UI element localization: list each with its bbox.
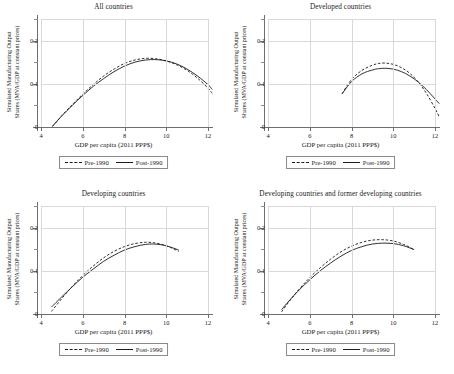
gridline-vertical: [435, 19, 436, 127]
gridline-vertical: [310, 19, 311, 127]
y-axis-minor-tick: [261, 62, 265, 63]
legend-label-pre: Pre-1990: [85, 159, 109, 166]
y-axis-tick-label: 0.1: [30, 268, 38, 274]
gridline-vertical: [352, 206, 353, 314]
x-axis-tick-label: 12: [432, 133, 438, 139]
y-axis-minor-tick: [261, 292, 265, 293]
x-axis-label: GDP per capita (2011 PPP$): [227, 328, 454, 335]
x-axis-tick: [208, 314, 209, 318]
x-axis-tick: [268, 314, 269, 318]
curve-pre-1990: [52, 58, 212, 126]
y-axis-minor-tick: [34, 62, 38, 63]
x-axis-tick-label: 10: [163, 133, 169, 139]
y-axis-tick-label: 0.2: [257, 37, 265, 43]
x-axis-tick: [125, 314, 126, 318]
solid-line-icon: [343, 162, 360, 163]
y-axis-line: [264, 15, 265, 131]
y-axis-label-line1: Simulated Manufacturing Output: [233, 203, 239, 315]
x-axis-tick: [41, 127, 42, 131]
legend-label-post: Post-1990: [363, 346, 390, 353]
x-axis-tick-label: 6: [81, 133, 84, 139]
x-axis-tick-label: 6: [81, 320, 84, 326]
curve-pre-1990: [51, 242, 178, 311]
y-axis-tick-label: 0.2: [30, 37, 38, 43]
x-axis-tick: [435, 127, 436, 131]
legend-item-post: Post-1990: [343, 159, 390, 166]
x-axis-tick: [208, 127, 209, 131]
y-axis-tick-label: 0: [35, 124, 38, 130]
x-axis-tick-label: 8: [350, 133, 353, 139]
plot-area: 00.10.24681012: [268, 206, 435, 314]
figure-grid: All countries Simulated Manufacturing Ou…: [0, 0, 454, 374]
y-axis-tick-label: 0.1: [30, 81, 38, 87]
y-axis-label: Simulated Manufacturing Output Shares (M…: [233, 16, 249, 128]
y-axis-label: Simulated Manufacturing Output Shares (M…: [6, 16, 22, 128]
legend-label-post: Post-1990: [136, 346, 163, 353]
curve-post-1990: [52, 60, 212, 127]
x-axis-tick-label: 6: [308, 133, 311, 139]
y-axis-tick-label: 0: [262, 311, 265, 317]
gridline-vertical: [268, 206, 269, 314]
gridline-vertical: [268, 19, 269, 127]
x-axis-tick: [83, 127, 84, 131]
x-axis-label: GDP per capita (2011 PPP$): [0, 141, 227, 148]
x-axis-tick: [166, 314, 167, 318]
curve-post-1990: [342, 68, 439, 103]
y-axis-line: [37, 15, 38, 131]
x-axis-tick: [268, 127, 269, 131]
solid-line-icon: [116, 162, 133, 163]
gridline-vertical: [393, 19, 394, 127]
legend-item-post: Post-1990: [343, 346, 390, 353]
x-axis-tick-label: 10: [163, 320, 169, 326]
gridline-vertical: [166, 206, 167, 314]
legend-item-pre: Pre-1990: [65, 159, 109, 166]
legend-item-post: Post-1990: [116, 159, 163, 166]
y-axis-tick-label: 0.1: [257, 81, 265, 87]
x-axis-tick-label: 10: [390, 320, 396, 326]
y-axis-tick-label: 0.1: [257, 268, 265, 274]
y-axis-tick-label: 0.2: [257, 224, 265, 230]
plot-area: 00.10.24681012: [41, 206, 208, 314]
x-axis-tick-label: 8: [123, 320, 126, 326]
panel-all-countries: All countries Simulated Manufacturing Ou…: [0, 0, 227, 187]
solid-line-icon: [116, 349, 133, 350]
legend: Pre-1990 Post-1990: [286, 156, 396, 169]
x-axis-tick-label: 4: [266, 133, 269, 139]
panel-title: All countries: [0, 3, 227, 11]
y-axis-label-line2: Shares (MVA/GDP at constant prices): [14, 16, 20, 128]
y-axis-label: Simulated Manufacturing Output Shares (M…: [6, 203, 22, 315]
legend-label-pre: Pre-1990: [312, 346, 336, 353]
panel-title: Developed countries: [227, 3, 454, 11]
gridline-vertical: [435, 206, 436, 314]
y-axis-label-line2: Shares (MVA/GDP at constant prices): [14, 203, 20, 315]
legend: Pre-1990 Post-1990: [286, 343, 396, 356]
gridline-vertical: [83, 206, 84, 314]
gridline-vertical: [208, 206, 209, 314]
y-axis-minor-tick: [34, 206, 38, 207]
dashed-line-icon: [65, 349, 82, 350]
gridline-vertical: [125, 19, 126, 127]
y-axis-minor-tick: [261, 105, 265, 106]
y-axis-minor-tick: [34, 105, 38, 106]
x-axis-tick-label: 10: [390, 133, 396, 139]
panel-developing-and-former-developing-countries: Developing countries and former developi…: [227, 187, 454, 374]
legend: Pre-1990 Post-1990: [59, 156, 169, 169]
x-axis-tick-label: 12: [432, 320, 438, 326]
x-axis-tick-label: 12: [205, 133, 211, 139]
gridline-vertical: [310, 206, 311, 314]
x-axis-tick: [352, 314, 353, 318]
x-axis-tick-label: 4: [266, 320, 269, 326]
gridline-vertical: [83, 19, 84, 127]
dashed-line-icon: [65, 162, 82, 163]
y-axis-minor-tick: [34, 249, 38, 250]
solid-line-icon: [343, 349, 360, 350]
legend-label-post: Post-1990: [363, 159, 390, 166]
x-axis-tick: [310, 127, 311, 131]
x-axis-tick: [393, 314, 394, 318]
legend: Pre-1990 Post-1990: [59, 343, 169, 356]
gridline-vertical: [41, 206, 42, 314]
curve-pre-1990: [342, 63, 439, 117]
dashed-line-icon: [292, 349, 309, 350]
x-axis-tick-label: 4: [39, 133, 42, 139]
gridline-vertical: [166, 19, 167, 127]
